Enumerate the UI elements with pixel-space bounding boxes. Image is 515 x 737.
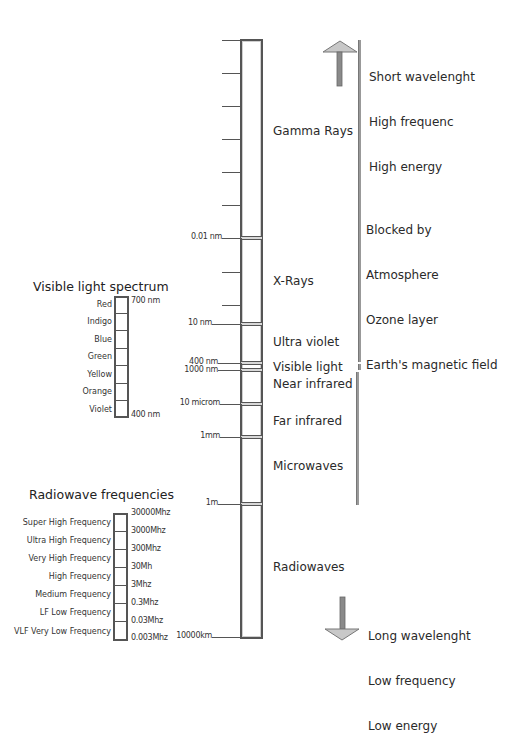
band-mf: Medium Frequency — [35, 590, 111, 599]
freq-value: 30Mh — [131, 562, 152, 571]
note-line: High energy — [369, 160, 475, 175]
radiowave-rung — [113, 603, 128, 604]
scale-tick — [218, 370, 242, 371]
color-blue: Blue — [94, 335, 112, 344]
spectrum-rung — [114, 365, 129, 366]
spectrum-rung — [114, 383, 129, 384]
scale-tick — [222, 40, 242, 41]
band-lf: LF Low Frequency — [40, 608, 111, 617]
scale-tick — [222, 238, 242, 239]
scale-label-1mm: 1mm — [200, 431, 220, 440]
blocked-by-note: Blocked by Atmosphere Ozone layer Earth'… — [366, 193, 498, 388]
scale-label-10000km: 10000km — [176, 631, 212, 640]
band-gamma-rays: Gamma Rays — [273, 124, 353, 138]
note-line: Blocked by — [366, 223, 498, 238]
spectrum-rung — [114, 313, 129, 314]
scale-tick — [222, 205, 242, 206]
freq-value: 0.3Mhz — [131, 598, 158, 607]
note-line: High frequenc — [369, 115, 475, 130]
band-ultra-violet: Ultra violet — [273, 335, 339, 349]
scale-tick — [218, 363, 242, 364]
band-divider — [241, 361, 262, 365]
note-line: Low energy — [368, 719, 471, 734]
radiowave-rung — [113, 549, 128, 550]
band-vhf: Very High Frequency — [28, 554, 111, 563]
freq-value: 3000Mhz — [131, 526, 165, 535]
band-divider — [241, 236, 262, 240]
band-shf: Super High Frequency — [23, 518, 111, 527]
color-yellow: Yellow — [87, 370, 112, 379]
visible-bottom-value: 400 nm — [131, 410, 160, 419]
scale-tick — [222, 272, 242, 273]
scale-tick — [222, 172, 242, 173]
freq-value: 300Mhz — [131, 544, 161, 553]
scale-label-1m: 1m — [206, 498, 218, 507]
color-red: Red — [97, 300, 112, 309]
freq-value: 3Mhz — [131, 580, 151, 589]
note-line: Atmosphere — [366, 268, 498, 283]
note-line: Earth's magnetic field — [366, 358, 498, 373]
color-violet: Violet — [89, 405, 112, 414]
radiowave-rung — [113, 567, 128, 568]
scale-label-10nm: 10 nm — [188, 318, 212, 327]
note-line: Ozone layer — [366, 313, 498, 328]
note-line: Short wavelenght — [369, 70, 475, 85]
scale-tick — [218, 504, 242, 505]
scale-tick — [222, 139, 242, 140]
band-divider — [241, 402, 262, 406]
band-divider — [241, 502, 262, 506]
note-line: Low frequency — [368, 674, 471, 689]
color-green: Green — [88, 352, 112, 361]
scale-tick — [212, 324, 242, 325]
arrow-up-icon — [320, 38, 360, 88]
radiowave-rung — [113, 531, 128, 532]
band-x-rays: X-Rays — [273, 274, 314, 288]
scale-tick — [220, 404, 242, 405]
band-radiowaves: Radiowaves — [273, 560, 345, 574]
arrow-down-icon — [322, 595, 362, 643]
scale-label-1000nm: 1000 nm — [184, 365, 218, 374]
scale-label-0.01nm: 0.01 nm — [191, 232, 222, 241]
scale-tick — [222, 305, 242, 306]
high-energy-note: Short wavelenght High frequenc High ener… — [369, 40, 475, 190]
freq-value: 0.03Mhz — [131, 616, 163, 625]
visible-spectrum-title: Visible light spectrum — [33, 279, 169, 294]
radiowave-rung — [113, 621, 128, 622]
band-far-infrared: Far infrared — [273, 414, 342, 428]
band-near-infrared: Near infrared — [273, 377, 353, 391]
radiowave-rung — [113, 585, 128, 586]
visible-light-mark — [358, 364, 361, 370]
band-divider — [241, 322, 262, 326]
band-vlf: VLF Very Low Frequency — [14, 627, 111, 636]
band-divider — [241, 368, 262, 372]
band-uhf: Ultra High Frequency — [27, 536, 111, 545]
band-divider — [241, 435, 262, 439]
visible-top-value: 700 nm — [131, 296, 160, 305]
color-orange: Orange — [82, 387, 112, 396]
spectrum-rung — [114, 330, 129, 331]
scale-tick — [212, 637, 242, 638]
freq-value: 30000Mhz — [131, 508, 170, 517]
color-indigo: Indigo — [87, 317, 112, 326]
band-visible-light: Visible light — [273, 360, 343, 374]
scale-tick — [222, 106, 242, 107]
spectrum-rung — [114, 348, 129, 349]
spectrum-rung — [114, 400, 129, 401]
scale-tick — [220, 437, 242, 438]
freq-value: 0.003Mhz — [131, 633, 168, 642]
high-energy-bracket — [358, 40, 361, 362]
scale-tick — [222, 73, 242, 74]
spectrum-bar — [240, 39, 263, 639]
scale-label-10microm: 10 microm — [180, 398, 220, 407]
band-hf: High Frequency — [49, 572, 111, 581]
radiowave-title: Radiowave frequencies — [29, 487, 174, 502]
infrared-microwave-bracket — [356, 372, 359, 505]
note-line: Long wavelenght — [368, 629, 471, 644]
low-energy-note: Long wavelenght Low frequency Low energy — [368, 599, 471, 737]
band-microwaves: Microwaves — [273, 459, 343, 473]
